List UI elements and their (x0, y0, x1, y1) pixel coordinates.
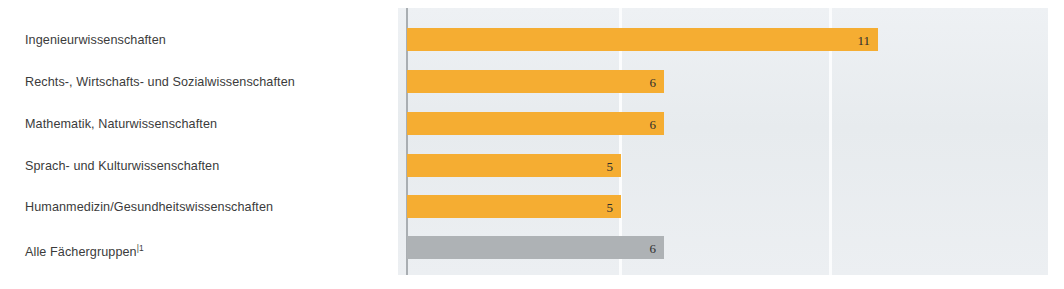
category-label-2: Mathematik, Naturwissenschaften (25, 117, 393, 131)
bar-value-3: 5 (607, 159, 614, 172)
bar-1[interactable]: 6 (407, 70, 664, 93)
bar-value-5: 6 (650, 241, 657, 254)
footnote-marker: |1 (137, 243, 144, 253)
category-label-5: Alle Fächergruppen|1 (25, 241, 393, 259)
bar-2[interactable]: 6 (407, 112, 664, 135)
category-label-3: Sprach- und Kulturwissenschaften (25, 159, 393, 173)
plot-area: 11 6 6 5 5 6 (398, 8, 1048, 275)
category-label-0: Ingenieurwissenschaften (25, 33, 393, 47)
bar-3[interactable]: 5 (407, 154, 621, 177)
category-label-1: Rechts-, Wirtschafts- und Sozialwissensc… (25, 75, 393, 89)
bar-value-2: 6 (650, 117, 657, 130)
bar-chart-figure: Ingenieurwissenschaften Rechts-, Wirtsch… (0, 0, 1064, 289)
bar-value-0: 11 (857, 33, 870, 46)
bar-4[interactable]: 5 (407, 195, 621, 218)
bar-5[interactable]: 6 (407, 236, 664, 259)
bar-value-4: 5 (607, 200, 614, 213)
bar-0[interactable]: 11 (407, 28, 878, 51)
category-label-column: Ingenieurwissenschaften Rechts-, Wirtsch… (0, 0, 395, 289)
bar-value-1: 6 (650, 75, 657, 88)
category-label-4: Humanmedizin/Gesundheitswissenschaften (25, 200, 393, 214)
